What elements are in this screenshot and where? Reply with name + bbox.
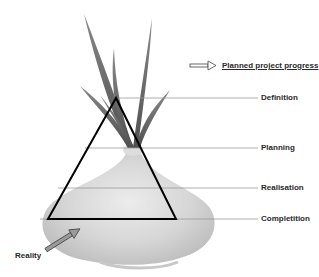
onion-leaves: [80, 14, 170, 148]
arrow-right-icon: [190, 61, 216, 70]
stage-label-planning: Planning: [261, 143, 295, 153]
reality-label: Reality: [15, 251, 41, 261]
stage-label-definition: Definition: [261, 93, 298, 103]
stage-label-completition: Completition: [261, 214, 310, 224]
legend-label: Planned project progress: [222, 61, 318, 71]
onion-diagram: Planned project progress Definition Plan…: [0, 0, 319, 277]
onion-illustration: [0, 0, 319, 277]
onion-bulb: [42, 144, 214, 268]
stage-label-realisation: Realisation: [261, 183, 304, 193]
